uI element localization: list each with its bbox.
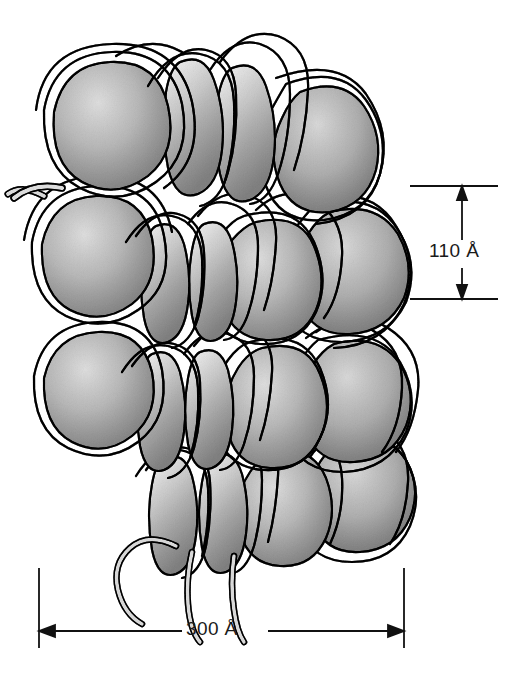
solenoid-illustration: [0, 0, 523, 700]
nucleosome-core: [42, 196, 154, 317]
nucleosome-core: [44, 332, 154, 449]
nucleosome-core: [54, 62, 171, 190]
horizontal-dimension-label: 300 Å: [186, 618, 238, 640]
chromatin-solenoid-figure: 110 Å 300 Å: [0, 0, 523, 700]
vertical-dimension-label: 110 Å: [429, 240, 479, 262]
